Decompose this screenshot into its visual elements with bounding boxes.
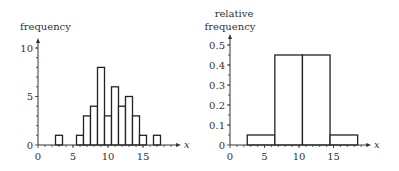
x-axis-label: x	[374, 139, 380, 150]
histogram-bar	[105, 116, 112, 145]
histogram-bar	[77, 135, 84, 145]
x-tick-label: 15	[327, 151, 340, 162]
histogram-bar	[275, 55, 303, 145]
y-tick-label: 10	[20, 43, 33, 54]
x-tick-label: 10	[102, 151, 115, 162]
histogram-bar	[98, 67, 105, 145]
y-tick-label: 0	[27, 140, 33, 151]
histogram-bar	[56, 135, 63, 145]
histogram-bar	[330, 135, 358, 145]
y-tick-label: 0.4	[209, 60, 225, 71]
x-axis-label: x	[184, 139, 190, 150]
y-axis-label-line1: relative	[215, 8, 254, 19]
histogram-bar	[302, 55, 330, 145]
histogram-bar	[112, 87, 119, 145]
x-tick-label: 10	[293, 151, 306, 162]
y-tick-label: 0	[219, 140, 225, 151]
y-tick-label: 5	[27, 91, 33, 102]
x-axis-arrow-icon	[366, 143, 371, 147]
histogram-bar	[247, 135, 275, 145]
charts-canvas: 0510frequency051015x 00.10.20.30.40.5rel…	[0, 0, 399, 171]
x-tick-label: 0	[35, 151, 41, 162]
y-tick-label: 0.5	[209, 40, 225, 51]
histogram-bar	[133, 116, 140, 145]
x-tick-label: 5	[70, 151, 76, 162]
y-tick-label: 0.2	[209, 100, 225, 111]
histogram-bar	[84, 116, 91, 145]
x-tick-label: 5	[261, 151, 267, 162]
y-axis-label: frequency	[20, 21, 71, 32]
histogram-bar	[154, 135, 161, 145]
y-axis-arrow-icon	[228, 34, 232, 39]
histogram-bar	[119, 106, 126, 145]
relative-frequency-histogram: 00.10.20.30.40.5relativefrequency051015x	[205, 8, 381, 162]
y-axis-arrow-icon	[36, 38, 40, 43]
x-axis-arrow-icon	[176, 143, 181, 147]
histogram-bar	[140, 135, 147, 145]
y-tick-label: 0.3	[209, 80, 225, 91]
histogram-bar	[126, 97, 133, 146]
histogram-bar	[91, 106, 98, 145]
x-tick-label: 0	[227, 151, 233, 162]
x-tick-label: 15	[137, 151, 150, 162]
y-tick-label: 0.1	[209, 120, 225, 131]
y-axis-label-line2: frequency	[205, 21, 256, 32]
frequency-histogram: 0510frequency051015x	[20, 21, 190, 162]
